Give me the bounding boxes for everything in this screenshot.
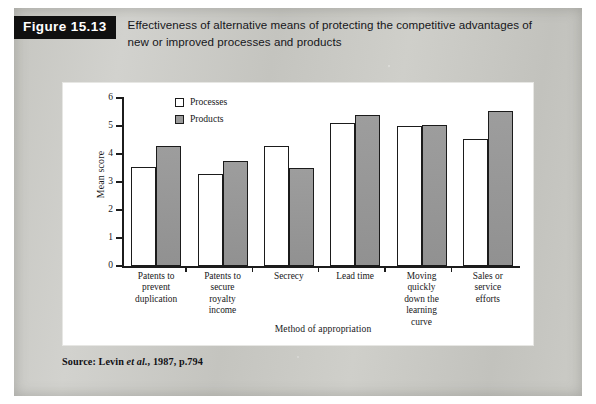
bar-products-1 xyxy=(223,161,248,266)
chart-legend: Processes Products xyxy=(175,95,227,129)
category-label-line: learning xyxy=(384,305,458,316)
category-label-line: prevent xyxy=(119,282,193,293)
legend-label-processes: Processes xyxy=(190,97,227,107)
category-label-2: Secrecy xyxy=(252,271,326,282)
bar-products-2 xyxy=(289,168,314,266)
bar-processes-1 xyxy=(198,174,223,266)
figure-header: Figure 15.13 Effectiveness of alternativ… xyxy=(14,16,554,51)
category-label-line: secure xyxy=(185,282,259,293)
bar-processes-5 xyxy=(463,139,488,266)
category-label-line: curve xyxy=(384,317,458,328)
category-label-3: Lead time xyxy=(318,271,392,282)
bar-processes-2 xyxy=(264,146,289,266)
y-tick-label-4: 4 xyxy=(101,149,113,159)
category-label-line: income xyxy=(185,305,259,316)
category-label-line: Patents to xyxy=(119,271,193,282)
category-label-line: royalty xyxy=(185,294,259,305)
y-tick-4 xyxy=(116,153,123,154)
y-tick-1 xyxy=(116,237,123,238)
legend-item-processes: Processes xyxy=(175,95,227,109)
category-label-line: Secrecy xyxy=(252,271,326,282)
legend-swatch-processes-icon xyxy=(175,98,184,107)
category-label-line: service xyxy=(451,282,525,293)
legend-item-products: Products xyxy=(175,112,227,126)
y-tick-label-3: 3 xyxy=(101,177,113,187)
category-label-line: Patents to xyxy=(185,271,259,282)
category-label-line: Sales or xyxy=(451,271,525,282)
y-tick-0 xyxy=(116,265,123,266)
y-tick-label-6: 6 xyxy=(101,93,113,103)
legend-label-products: Products xyxy=(190,114,224,124)
category-label-1: Patents tosecureroyaltyincome xyxy=(185,271,259,317)
x-axis-line xyxy=(122,266,520,268)
y-tick-6 xyxy=(116,97,123,98)
y-tick-3 xyxy=(116,181,123,182)
y-tick-label-5: 5 xyxy=(101,121,113,131)
bar-processes-0 xyxy=(131,167,156,266)
category-label-line: down the xyxy=(384,294,458,305)
figure-caption: Effectiveness of alternative means of pr… xyxy=(128,16,554,51)
category-label-line: efforts xyxy=(451,294,525,305)
bar-products-3 xyxy=(355,115,380,266)
y-tick-label-0: 0 xyxy=(101,261,113,271)
category-label-line: quickly xyxy=(384,282,458,293)
category-label-5: Sales orserviceefforts xyxy=(451,271,525,305)
bar-processes-4 xyxy=(397,126,422,266)
figure-page: Figure 15.13 Effectiveness of alternativ… xyxy=(0,0,596,404)
figure-number-badge: Figure 15.13 xyxy=(14,16,116,39)
category-label-0: Patents topreventduplication xyxy=(119,271,193,305)
y-tick-2 xyxy=(116,209,123,210)
bar-products-5 xyxy=(488,111,513,266)
y-tick-label-2: 2 xyxy=(101,205,113,215)
bar-processes-3 xyxy=(330,123,355,266)
legend-swatch-products-icon xyxy=(175,115,184,124)
plot-area: Mean score Method of appropriation 01234… xyxy=(63,83,533,345)
category-label-line: duplication xyxy=(119,294,193,305)
y-tick-5 xyxy=(116,125,123,126)
source-italic: et al. xyxy=(127,356,148,367)
source-suffix: , 1987, p.794 xyxy=(148,356,203,367)
bar-products-4 xyxy=(422,125,447,266)
y-tick-label-1: 1 xyxy=(101,233,113,243)
source-note: Source: Levin et al., 1987, p.794 xyxy=(62,356,203,367)
bar-products-0 xyxy=(156,146,181,266)
category-label-line: Moving xyxy=(384,271,458,282)
category-label-line: Lead time xyxy=(318,271,392,282)
category-label-4: Movingquicklydown thelearningcurve xyxy=(384,271,458,328)
chart-panel: Mean score Method of appropriation 01234… xyxy=(62,82,534,346)
source-prefix: Source: Levin xyxy=(62,356,127,367)
